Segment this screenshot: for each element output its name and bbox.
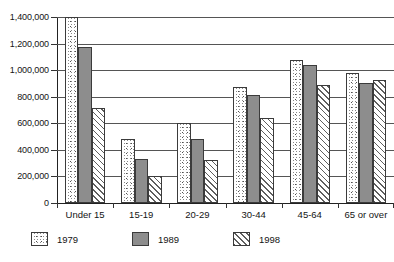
y-axis-tick-mark: [51, 150, 57, 151]
legend-swatch: [31, 232, 48, 246]
bar-group: [65, 17, 106, 203]
bar-chart-figure: 0200,000400,000600,000800,0001,000,0001,…: [0, 0, 394, 262]
y-axis-tick-label: 1,400,000: [10, 13, 49, 22]
y-axis-tick-label: 0: [44, 199, 49, 208]
legend-swatch: [233, 232, 250, 246]
bar: [303, 65, 317, 203]
bar: [260, 118, 274, 203]
gridline: [57, 70, 394, 71]
bar: [121, 139, 135, 203]
bar-group: [346, 17, 387, 203]
bar-group: [290, 17, 331, 203]
bar: [233, 87, 247, 203]
x-axis-category-label: Under 15: [66, 209, 105, 220]
y-axis-tick-mark: [51, 203, 57, 204]
bar: [359, 83, 373, 203]
legend-label: 1979: [57, 234, 78, 245]
bar-group: [177, 17, 218, 203]
y-axis-tick-label: 200,000: [17, 172, 49, 181]
x-axis-category-label: 30-44: [241, 209, 265, 220]
x-axis-tick-mark: [113, 203, 114, 208]
y-axis-tick-label: 400,000: [17, 145, 49, 154]
x-axis-category-label: 65 or over: [345, 209, 388, 220]
legend-label: 1989: [158, 234, 179, 245]
x-axis-tick-mark: [169, 203, 170, 208]
y-axis-tick-label: 600,000: [17, 119, 49, 128]
gridline: [57, 17, 394, 18]
y-axis-tick-mark: [51, 17, 57, 18]
bar: [346, 73, 360, 203]
x-axis-category-labels: Under 1515-1920-2930-4445-6465 or over: [57, 209, 394, 223]
gridline: [57, 176, 394, 177]
legend-item: 1989: [132, 232, 179, 246]
x-axis-tick-mark: [282, 203, 283, 208]
y-axis-tick-mark: [51, 97, 57, 98]
bar: [247, 95, 261, 203]
bar: [191, 139, 205, 203]
gridline: [57, 123, 394, 124]
x-axis-tick-mark: [57, 203, 58, 208]
legend-label: 1998: [259, 234, 280, 245]
bar: [290, 60, 304, 203]
bar-group: [121, 17, 162, 203]
x-axis-category-label: 45-64: [298, 209, 322, 220]
bar: [78, 47, 92, 203]
bar-group: [233, 17, 274, 203]
axes-canvas: [57, 17, 394, 203]
y-axis-tick-mark: [51, 70, 57, 71]
bar: [65, 17, 79, 203]
bar: [177, 123, 191, 203]
bar: [148, 176, 162, 203]
y-axis-tick-mark: [51, 176, 57, 177]
legend-item: 1979: [31, 232, 78, 246]
y-axis-tick-labels: 0200,000400,000600,000800,0001,000,0001,…: [0, 0, 54, 212]
x-axis-tick-mark: [338, 203, 339, 208]
bar: [373, 80, 387, 203]
y-axis-tick-mark: [51, 44, 57, 45]
bar: [92, 108, 106, 203]
chart-legend: 197919891998: [31, 232, 331, 254]
gridline: [57, 97, 394, 98]
plot-area: 0200,000400,000600,000800,0001,000,0001,…: [0, 0, 394, 212]
y-axis-tick-label: 1,000,000: [10, 66, 49, 75]
gridline: [57, 150, 394, 151]
x-axis-tick-mark: [226, 203, 227, 208]
y-axis-tick-label: 800,000: [17, 92, 49, 101]
y-axis-tick-label: 1,200,000: [10, 39, 49, 48]
bar: [135, 159, 149, 204]
bar: [204, 160, 218, 203]
x-axis-category-label: 15-19: [129, 209, 153, 220]
legend-swatch: [132, 232, 149, 246]
legend-item: 1998: [233, 232, 280, 246]
y-axis-tick-mark: [51, 123, 57, 124]
gridline: [57, 44, 394, 45]
bar: [317, 85, 331, 203]
x-axis-category-label: 20-29: [185, 209, 209, 220]
